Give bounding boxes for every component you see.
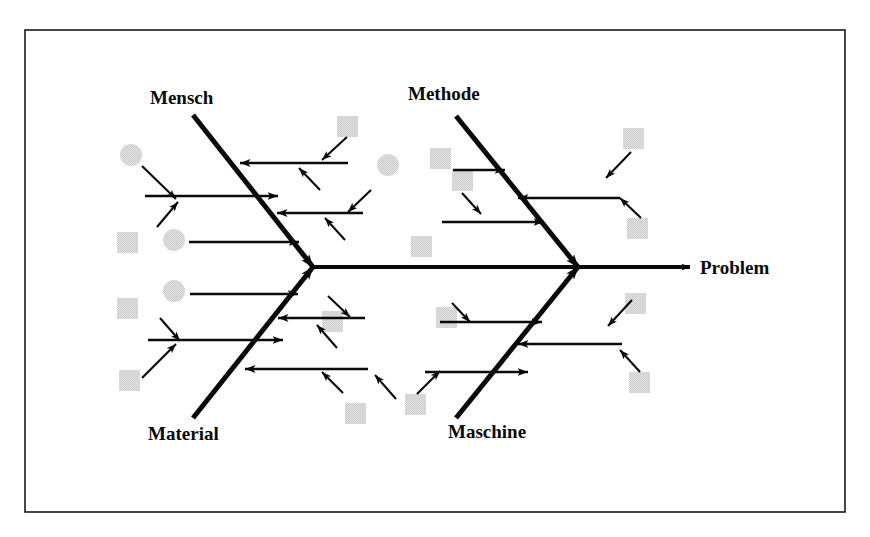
feeder-arrow bbox=[142, 344, 176, 378]
placeholder-square bbox=[629, 372, 650, 393]
placeholder-circle bbox=[120, 144, 142, 166]
bone-label-material: Material bbox=[148, 423, 219, 444]
bone-label-group: MenschMethodeMaterialMaschine bbox=[148, 83, 526, 444]
placeholder-square bbox=[627, 218, 648, 239]
feeder-arrow bbox=[462, 193, 481, 214]
placeholder-circle bbox=[163, 229, 185, 251]
main-bone-methode bbox=[456, 116, 578, 267]
placeholder-square bbox=[119, 370, 140, 391]
feeder-arrow bbox=[325, 218, 345, 240]
placeholder-square bbox=[322, 311, 343, 332]
placeholder-square bbox=[117, 232, 138, 253]
bone-label-maschine: Maschine bbox=[448, 421, 526, 442]
placeholder-square bbox=[405, 394, 426, 415]
placeholder-circle bbox=[377, 154, 399, 176]
feeder-arrow bbox=[322, 137, 347, 160]
bone-label-mensch: Mensch bbox=[150, 87, 214, 108]
bone-label-methode: Methode bbox=[408, 83, 480, 104]
diagram-canvas: Problem MenschMethodeMaterialMaschine bbox=[0, 0, 870, 537]
placeholder-shape-group bbox=[117, 116, 650, 424]
problem-label: Problem bbox=[700, 257, 769, 278]
feeder-arrow bbox=[620, 198, 641, 218]
feeder-arrow bbox=[157, 202, 178, 227]
feeder-arrow bbox=[375, 375, 396, 399]
placeholder-square bbox=[623, 128, 644, 149]
main-bone-maschine bbox=[456, 267, 578, 418]
main-bone-material bbox=[193, 267, 313, 418]
placeholder-square bbox=[436, 307, 457, 328]
feeder-arrow bbox=[142, 166, 176, 199]
placeholder-square bbox=[452, 170, 473, 191]
placeholder-square bbox=[117, 298, 138, 319]
main-bone-mensch bbox=[193, 115, 313, 267]
feeder-arrow bbox=[417, 371, 440, 394]
feeder-arrow bbox=[606, 152, 631, 178]
placeholder-circle bbox=[163, 280, 185, 302]
feeder-arrow bbox=[322, 372, 343, 393]
fishbone-diagram: Problem MenschMethodeMaterialMaschine bbox=[0, 0, 870, 537]
feeder-arrow bbox=[620, 350, 640, 372]
placeholder-square bbox=[345, 403, 366, 424]
feeder-arrow bbox=[160, 318, 180, 341]
placeholder-square bbox=[430, 148, 451, 169]
feeder-arrow bbox=[348, 190, 371, 212]
placeholder-square bbox=[411, 236, 432, 257]
feeder-arrow bbox=[299, 168, 320, 190]
placeholder-square bbox=[337, 116, 358, 137]
